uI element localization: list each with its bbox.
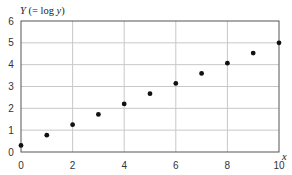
data-point [70,122,75,127]
y-tick-label: 4 [8,59,14,70]
data-points [19,40,282,147]
y-axis-title: Y (= log y) [20,5,65,17]
x-tick-label: 2 [70,160,76,171]
y-tick-label: 3 [8,81,14,92]
grid-lines [21,21,279,152]
y-tick-label: 5 [8,37,14,48]
x-axis-tick-labels: 0246810 [18,160,285,171]
x-tick-label: 0 [18,160,24,171]
data-point [277,40,282,45]
y-tick-label: 6 [8,16,14,27]
data-point [199,71,204,76]
data-point [122,102,127,107]
y-tick-label: 2 [8,103,14,114]
data-point [96,112,101,117]
data-point [251,51,256,56]
data-point [44,133,49,138]
x-tick-label: 4 [121,160,127,171]
data-point [225,61,230,66]
y-tick-label: 1 [8,125,14,136]
y-tick-label: 0 [8,147,14,158]
x-axis-title: x [281,151,287,162]
y-axis-tick-labels: 0123456 [8,16,14,158]
data-point [148,91,153,96]
data-point [19,143,24,148]
x-tick-label: 6 [173,160,179,171]
x-tick-label: 8 [225,160,231,171]
data-point [173,81,178,86]
scatter-chart: 0123456 0246810 Y (= log y) x [0,0,292,175]
